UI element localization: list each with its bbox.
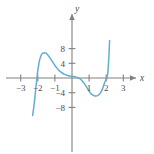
y-tick-label--4: −4	[55, 88, 65, 98]
x-tick-label-1: 1	[87, 83, 92, 93]
coordinate-plot: −3 −2 −1 1 2 3 8 4 −4 −8 x y	[0, 0, 154, 154]
y-tick-label-4: 4	[61, 59, 66, 69]
y-tick-label-8: 8	[61, 44, 66, 54]
x-tick-label--3: −3	[16, 83, 26, 93]
y-tick-label--8: −8	[55, 103, 65, 113]
x-axis-label: x	[139, 73, 145, 83]
x-axis-arrow-icon	[130, 75, 136, 81]
y-axis-group	[69, 14, 75, 152]
x-tick-label--2: −2	[33, 83, 43, 93]
graph-figure: −3 −2 −1 1 2 3 8 4 −4 −8 x y	[0, 0, 154, 154]
x-tick-label-3: 3	[121, 83, 126, 93]
y-axis-arrow-icon	[69, 14, 75, 20]
y-axis-label: y	[74, 4, 80, 14]
x-tick-label-2: 2	[104, 83, 109, 93]
